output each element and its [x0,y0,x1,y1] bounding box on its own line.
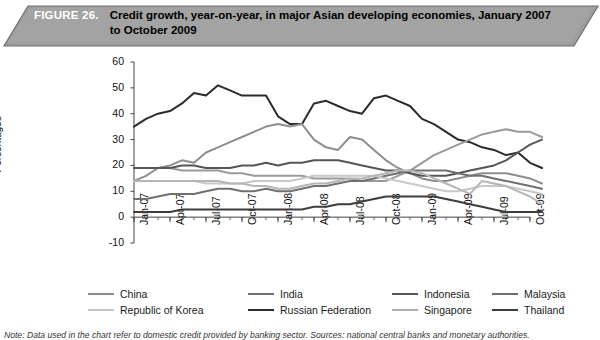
figure-title: Credit growth, year-on-year, in major As… [110,8,554,38]
legend-item-republic-of-korea[interactable]: Republic of Korea [88,304,203,316]
series-line-india [134,124,542,183]
legend-label: Thailand [524,304,564,316]
legend-color-swatch [392,293,418,295]
legend-color-swatch [392,309,418,311]
figure-note: Note: Data used in the chart refer to do… [4,330,596,340]
series-line-thailand [134,197,542,213]
legend-item-india[interactable]: India [248,288,303,300]
legend-label: Russian Federation [280,304,371,316]
legend-item-indonesia[interactable]: Indonesia [392,288,470,300]
legend-color-swatch [88,293,114,295]
legend-item-russian-federation[interactable]: Russian Federation [248,304,371,316]
legend-color-swatch [492,309,518,311]
legend-label: Republic of Korea [120,304,203,316]
legend-label: China [120,288,147,300]
legend-label: Singapore [424,304,472,316]
legend-item-china[interactable]: China [88,288,147,300]
plot-canvas [0,52,600,287]
legend-color-swatch [248,309,274,311]
legend-item-singapore[interactable]: Singapore [392,304,472,316]
series-line-russian-federation [134,85,542,168]
legend-color-swatch [492,293,518,295]
banner-text-group: FIGURE 26. Credit growth, year-on-year, … [34,8,554,38]
legend-item-malaysia[interactable]: Malaysia [492,288,565,300]
legend-label: India [280,288,303,300]
figure-header-banner: FIGURE 26. Credit growth, year-on-year, … [0,2,600,50]
legend-label: Malaysia [524,288,565,300]
chart-container: Percentages -100102030405060 Jan-07Apr-0… [0,52,600,287]
legend-color-swatch [248,293,274,295]
legend-color-swatch [88,309,114,311]
legend-label: Indonesia [424,288,470,300]
axes [131,62,531,243]
figure-number: FIGURE 26. [34,8,99,21]
legend-item-thailand[interactable]: Thailand [492,304,564,316]
series-lines [134,85,542,212]
chart-legend: ChinaRepublic of KoreaIndiaRussian Feder… [0,288,600,322]
